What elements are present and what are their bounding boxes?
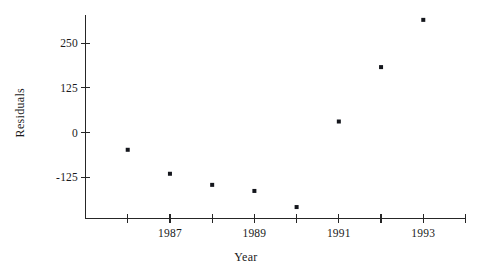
y-axis-tick-label: 250 xyxy=(38,37,78,49)
data-point xyxy=(421,18,425,22)
data-point xyxy=(295,205,299,209)
data-point xyxy=(126,148,130,152)
x-axis-tick-label: 1989 xyxy=(242,227,266,239)
x-axis-tick-label: 1987 xyxy=(158,227,182,239)
x-axis-tick-label: 1991 xyxy=(327,227,351,239)
scatter-plot-figure: -1250125250 1987198919911993 Residuals Y… xyxy=(0,0,492,279)
y-axis-title: Residuals xyxy=(13,88,28,137)
data-point xyxy=(210,183,214,187)
x-axis-tick-label: 1993 xyxy=(411,227,435,239)
data-point xyxy=(379,65,383,69)
x-axis-title: Year xyxy=(0,250,492,265)
y-axis-tick-label: 125 xyxy=(38,82,78,94)
data-point xyxy=(168,172,172,176)
data-point xyxy=(252,189,256,193)
data-point xyxy=(337,120,341,124)
y-axis-tick-label: 0 xyxy=(38,127,78,139)
y-axis-tick-label: -125 xyxy=(38,171,78,183)
